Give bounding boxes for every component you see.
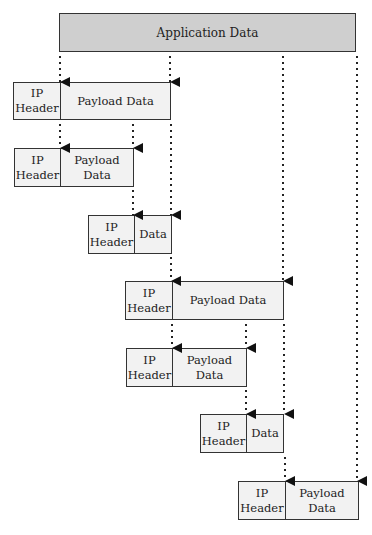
dotted-arrows — [0, 0, 372, 535]
